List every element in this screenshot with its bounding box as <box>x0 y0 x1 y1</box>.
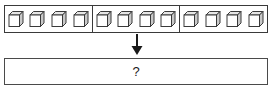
cube-grouping-puzzle: ? <box>0 0 274 95</box>
answer-box[interactable]: ? <box>4 58 268 85</box>
cube-group-1 <box>5 6 92 32</box>
cube-icon <box>8 10 24 28</box>
answer-question-mark: ? <box>132 65 139 78</box>
cube-icon <box>96 10 112 28</box>
cube-strip <box>4 5 268 33</box>
arrow-down-icon <box>130 34 144 56</box>
cube-icon <box>183 10 199 28</box>
cube-group-2 <box>92 6 180 32</box>
cube-icon <box>117 10 133 28</box>
cube-icon <box>139 10 155 28</box>
cube-icon <box>160 10 176 28</box>
cube-icon <box>205 10 221 28</box>
cube-group-3 <box>179 6 267 32</box>
cube-icon <box>226 10 242 28</box>
cube-icon <box>248 10 264 28</box>
cube-icon <box>29 10 45 28</box>
cube-icon <box>73 10 89 28</box>
cube-icon <box>51 10 67 28</box>
